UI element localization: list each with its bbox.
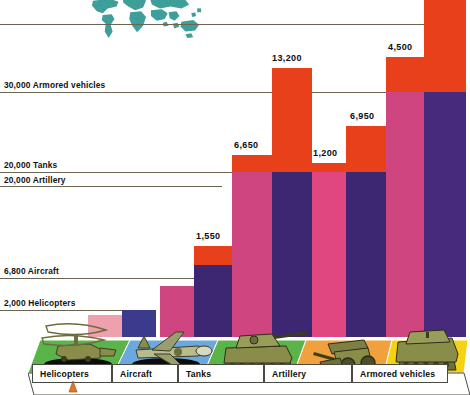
axis-label-aircraft: 6,800 Aircraft: [4, 266, 59, 276]
axis-label-helicopters: 2,000 Helicopters: [4, 298, 75, 308]
value-label-6950: 6,950: [350, 111, 375, 121]
legend-item-armored-vehicles[interactable]: Armored vehicles: [352, 364, 448, 383]
legend-label-helicopters: Helicopters: [33, 369, 89, 379]
value-label-13200: 13,200: [272, 53, 302, 63]
bar-artillery-b-reduction: [346, 126, 386, 172]
pointer-cone-icon: [68, 381, 78, 393]
axis-label-tanks: 20,000 Tanks: [4, 160, 57, 170]
bar-armored-b-reduction: [424, 0, 466, 92]
bar-artillery-b: [346, 172, 386, 337]
legend-item-artillery[interactable]: Artillery: [264, 364, 352, 383]
gridline-top-unlabeled: [0, 24, 456, 25]
value-label-1550: 1,550: [196, 231, 221, 241]
legend-item-aircraft[interactable]: Aircraft: [112, 364, 178, 383]
bar-armored-b: [424, 92, 466, 337]
world-map-icon: [88, 0, 206, 40]
legend-label-tanks: Tanks: [179, 369, 211, 379]
bar-tanks-b-reduction: [272, 68, 312, 172]
legend-label-aircraft: Aircraft: [113, 369, 152, 379]
gridline-helicopters: [0, 310, 136, 311]
chart-canvas: 30,000 Armored vehicles 20,000 Tanks 20,…: [0, 0, 470, 395]
bar-armored-a: [386, 92, 424, 337]
bar-aircraft-reduction: [194, 246, 232, 265]
bar-armored-a-reduction: [386, 57, 424, 92]
axis-label-artillery: 20,000 Artillery: [4, 175, 66, 185]
ground-platform: [28, 318, 470, 395]
bar-tanks-a: [232, 172, 272, 337]
gridline-aircraft: [0, 278, 196, 279]
legend-label-artillery: Artillery: [265, 369, 306, 379]
bar-artillery-a: [312, 172, 346, 337]
legend-label-armored-vehicles: Armored vehicles: [353, 369, 435, 379]
bar-tanks-a-reduction: [232, 155, 272, 172]
bar-tanks-b: [272, 172, 312, 337]
value-label-4500: 4,500: [388, 42, 413, 52]
value-label-6650: 6,650: [234, 140, 259, 150]
axis-label-armored: 30,000 Armored vehicles: [4, 80, 105, 90]
value-label-1200: 1,200: [313, 148, 338, 158]
legend-item-tanks[interactable]: Tanks: [178, 364, 264, 383]
bar-artillery-a-reduction: [312, 163, 346, 172]
gridline-artillery: [0, 186, 222, 187]
